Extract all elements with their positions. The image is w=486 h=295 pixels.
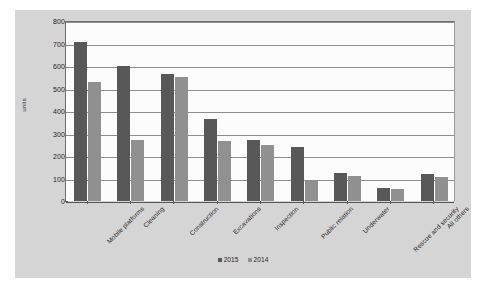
bar-group — [153, 22, 196, 201]
y-axis-ticks: 8007006005004003002001000 — [15, 21, 65, 201]
bar-group — [196, 22, 239, 201]
bar-group — [109, 22, 152, 201]
bar-chart: units 8007006005004003002001000 Mobile p… — [15, 10, 471, 278]
x-tick-mark — [390, 201, 391, 204]
bar-2015[interactable] — [291, 147, 304, 201]
bar-2015[interactable] — [161, 74, 174, 201]
bar-2014[interactable] — [131, 140, 144, 201]
x-tick-label: Excavations — [231, 205, 262, 236]
x-tick-mark — [173, 201, 174, 204]
bar-group — [326, 22, 369, 201]
y-tick-label: 400 — [23, 108, 65, 115]
x-axis-labels: Mobile platformsCleaningConstructionExca… — [65, 201, 455, 263]
y-tick-label: 500 — [23, 85, 65, 92]
bar-2014[interactable] — [305, 180, 318, 201]
bars-layer — [66, 22, 454, 201]
x-tick-label: Construction — [188, 205, 220, 237]
bar-2015[interactable] — [421, 174, 434, 201]
bar-2014[interactable] — [348, 176, 361, 201]
bar-2014[interactable] — [435, 177, 448, 201]
legend-item-2015[interactable]: 2015 — [218, 256, 239, 263]
bar-2015[interactable] — [377, 188, 390, 202]
legend-swatch-icon — [248, 258, 252, 262]
bar-2014[interactable] — [391, 189, 404, 201]
plot-area — [65, 21, 455, 201]
x-tick-mark — [347, 201, 348, 204]
bar-group — [413, 22, 456, 201]
y-tick-label: 300 — [23, 130, 65, 137]
legend-label: 2014 — [254, 256, 269, 263]
x-tick-mark — [433, 201, 434, 204]
x-tick-mark — [130, 201, 131, 204]
bar-2014[interactable] — [175, 77, 188, 201]
y-tick-label: 800 — [23, 18, 65, 25]
x-tick-mark — [303, 201, 304, 204]
x-tick-label: Inspection — [273, 205, 300, 232]
y-tick-label: 100 — [23, 175, 65, 182]
x-tick-label: Underwater — [361, 205, 390, 234]
bar-group — [369, 22, 412, 201]
y-tick-label: 0 — [23, 198, 65, 205]
x-tick-label: Public relation — [320, 205, 355, 240]
bar-2015[interactable] — [74, 42, 87, 201]
x-tick-mark — [217, 201, 218, 204]
x-tick-label: Mobile platforms — [105, 205, 145, 245]
y-tick-label: 600 — [23, 63, 65, 70]
x-tick-label: Cleaning — [142, 205, 166, 229]
y-tick-label: 200 — [23, 153, 65, 160]
x-tick-mark — [260, 201, 261, 204]
legend-item-2014[interactable]: 2014 — [248, 256, 269, 263]
bar-2014[interactable] — [218, 141, 231, 201]
x-tick-label: Rescue and security — [412, 205, 460, 253]
bar-group — [66, 22, 109, 201]
bar-2014[interactable] — [261, 145, 274, 201]
legend-swatch-icon — [218, 258, 222, 262]
bar-2014[interactable] — [88, 82, 101, 201]
bar-2015[interactable] — [334, 173, 347, 201]
bar-2015[interactable] — [247, 140, 260, 201]
bar-group — [239, 22, 282, 201]
bar-2015[interactable] — [117, 66, 130, 201]
bar-2015[interactable] — [204, 119, 217, 201]
x-tick-mark — [87, 201, 88, 204]
legend-label: 2015 — [224, 256, 239, 263]
y-tick-label: 700 — [23, 40, 65, 47]
chart-legend: 20152014 — [15, 256, 471, 263]
bar-group — [283, 22, 326, 201]
